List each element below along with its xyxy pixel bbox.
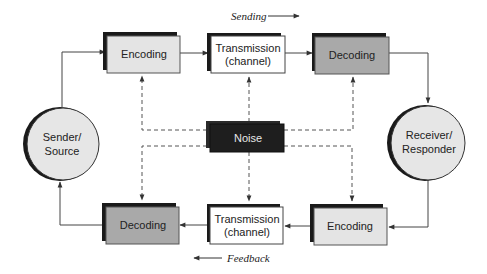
top-encoding-box: Encoding — [103, 32, 180, 73]
bottom-encoding-box: Encoding — [310, 204, 387, 245]
svg-text:Decoding: Decoding — [329, 49, 375, 61]
top-decoding-box: Decoding — [312, 33, 389, 74]
svg-text:Receiver/: Receiver/ — [406, 129, 453, 141]
svg-text:Encoding: Encoding — [121, 48, 167, 60]
sender-source-node: Sender/ Source — [23, 107, 99, 181]
svg-text:Source: Source — [45, 145, 80, 157]
noise-box: Noise — [206, 121, 284, 152]
top-transmission-box: Transmission (channel) — [207, 33, 285, 73]
svg-text:Decoding: Decoding — [120, 219, 166, 231]
communication-diagram: Sending Feedback — [0, 0, 487, 274]
svg-text:Sending: Sending — [231, 10, 267, 22]
svg-text:Encoding: Encoding — [327, 220, 373, 232]
bottom-decoding-box: Decoding — [102, 203, 179, 244]
svg-text:(channel): (channel) — [224, 226, 270, 238]
svg-text:Transmission: Transmission — [215, 213, 280, 225]
sending-label: Sending — [231, 10, 299, 22]
svg-text:Transmission: Transmission — [216, 42, 281, 54]
svg-text:(channel): (channel) — [225, 55, 271, 67]
svg-text:Noise: Noise — [234, 132, 262, 144]
receiver-responder-node: Receiver/ Responder — [387, 105, 465, 181]
svg-text:Sender/: Sender/ — [43, 131, 82, 143]
bottom-transmission-box: Transmission (channel) — [207, 204, 283, 244]
svg-text:Responder: Responder — [402, 143, 456, 155]
feedback-label: Feedback — [194, 252, 271, 264]
svg-text:Feedback: Feedback — [226, 252, 271, 264]
